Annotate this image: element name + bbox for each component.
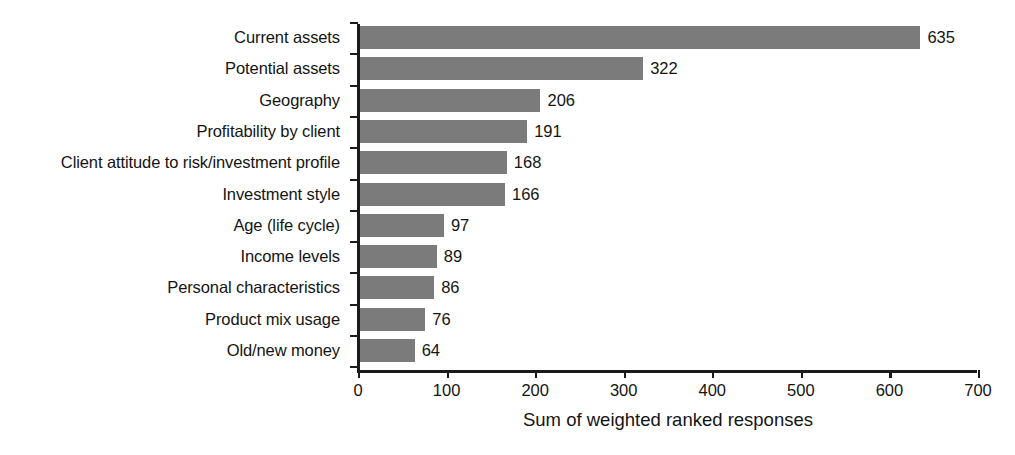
bar bbox=[358, 245, 437, 268]
x-axis-line bbox=[357, 370, 977, 373]
category-label: Investment style bbox=[222, 183, 340, 206]
x-axis-tick-label: 0 bbox=[353, 381, 362, 400]
bar bbox=[358, 26, 920, 49]
bar bbox=[358, 89, 540, 112]
y-axis-tick bbox=[350, 179, 358, 181]
bar bbox=[358, 120, 527, 143]
bar-value-label: 166 bbox=[512, 183, 540, 206]
y-axis-tick bbox=[350, 53, 358, 55]
bar-value-label: 97 bbox=[451, 214, 469, 237]
x-axis-title: Sum of weighted ranked responses bbox=[358, 409, 978, 431]
x-axis-tick bbox=[535, 370, 537, 378]
y-axis-tick bbox=[350, 272, 358, 274]
bar-value-label: 191 bbox=[534, 120, 562, 143]
x-axis-tick bbox=[447, 370, 449, 378]
x-axis-tick-label: 400 bbox=[699, 381, 727, 400]
category-label: Age (life cycle) bbox=[233, 214, 340, 237]
y-axis-tick bbox=[350, 147, 358, 149]
bar-value-label: 86 bbox=[441, 276, 459, 299]
x-axis-tick-label: 500 bbox=[787, 381, 815, 400]
x-axis-tick-label: 100 bbox=[433, 381, 461, 400]
plot-area: 6353222061911681669789867664 bbox=[358, 26, 978, 370]
x-axis-tick bbox=[978, 370, 980, 378]
x-axis-tick-label: 200 bbox=[521, 381, 549, 400]
bar-value-label: 64 bbox=[422, 339, 440, 362]
x-axis-tick bbox=[889, 370, 891, 378]
x-axis-tick bbox=[358, 370, 360, 378]
y-axis-tick bbox=[350, 210, 358, 212]
category-label: Potential assets bbox=[225, 57, 340, 80]
bar bbox=[358, 57, 643, 80]
bar bbox=[358, 151, 507, 174]
bar-chart: Current assetsPotential assetsGeographyP… bbox=[0, 0, 1015, 455]
y-axis-tick bbox=[350, 366, 358, 368]
bar-value-label: 89 bbox=[444, 245, 462, 268]
category-label: Current assets bbox=[234, 26, 340, 49]
bar bbox=[358, 183, 505, 206]
x-axis-tick bbox=[624, 370, 626, 378]
bar bbox=[358, 339, 415, 362]
category-label: Profitability by client bbox=[196, 120, 340, 143]
y-axis-tick bbox=[350, 85, 358, 87]
bar-value-label: 322 bbox=[650, 57, 678, 80]
y-axis-tick bbox=[350, 116, 358, 118]
bar-value-label: 206 bbox=[547, 89, 575, 112]
category-label: Product mix usage bbox=[205, 308, 340, 331]
x-axis-tick bbox=[801, 370, 803, 378]
bar-value-label: 168 bbox=[514, 151, 542, 174]
bar-value-label: 635 bbox=[927, 26, 955, 49]
y-axis-tick bbox=[350, 241, 358, 243]
y-axis-tick bbox=[350, 22, 358, 24]
bar bbox=[358, 308, 425, 331]
x-axis-tick-label: 700 bbox=[964, 381, 992, 400]
category-label: Personal characteristics bbox=[167, 276, 340, 299]
category-label: Income levels bbox=[240, 245, 340, 268]
bar-value-label: 76 bbox=[432, 308, 450, 331]
category-label: Old/new money bbox=[227, 339, 340, 362]
bar bbox=[358, 214, 444, 237]
y-axis-tick bbox=[350, 304, 358, 306]
y-axis-tick bbox=[350, 335, 358, 337]
y-axis-line bbox=[357, 24, 360, 371]
category-label: Geography bbox=[259, 89, 340, 112]
category-label: Client attitude to risk/investment profi… bbox=[61, 151, 340, 174]
bar bbox=[358, 276, 434, 299]
x-axis-tick-label: 600 bbox=[876, 381, 904, 400]
x-axis-tick bbox=[712, 370, 714, 378]
x-axis-tick-label: 300 bbox=[610, 381, 638, 400]
